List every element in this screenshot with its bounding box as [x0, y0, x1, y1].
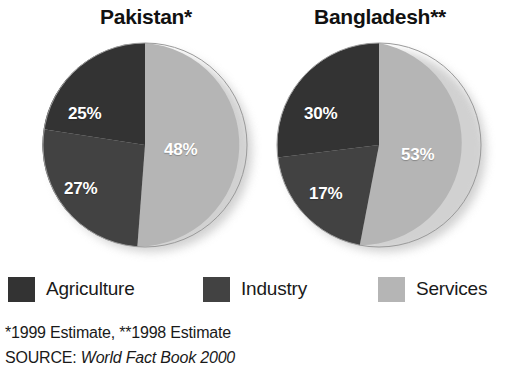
pie-bangladesh: [276, 42, 482, 248]
chart-title-bangladesh: Bangladesh**: [260, 5, 500, 29]
pie-label-agriculture: 25%: [68, 104, 101, 124]
source-prefix: SOURCE:: [5, 349, 81, 366]
pie-pakistan: [42, 42, 248, 248]
pie-wrapper-bangladesh: 30% 17% 53%: [276, 42, 486, 254]
pie-slice-agriculture: [277, 43, 379, 157]
pie-slice-agriculture: [44, 43, 145, 145]
chart-legend: Agriculture Industry Services: [0, 272, 507, 314]
pie-label-services: 48%: [164, 140, 197, 160]
legend-swatch-industry: [203, 277, 230, 302]
pie-charts-area: Pakistan* 25% 27% 48% Bangladesh**: [0, 0, 507, 268]
footnotes: *1999 Estimate, **1998 Estimate SOURCE: …: [5, 320, 505, 370]
footnote-estimates: *1999 Estimate, **1998 Estimate: [5, 320, 505, 345]
legend-label-agriculture: Agriculture: [46, 278, 135, 300]
legend-swatch-services: [378, 277, 405, 302]
legend-label-industry: Industry: [241, 278, 307, 300]
footnote-source: SOURCE: World Fact Book 2000: [5, 345, 505, 370]
source-title: World Fact Book 2000: [81, 349, 235, 366]
pie-label-services: 53%: [401, 145, 434, 165]
chart-bangladesh: Bangladesh** 30% 17% 53%: [260, 0, 500, 268]
pie-wrapper-pakistan: 25% 27% 48%: [42, 42, 252, 254]
chart-title-pakistan: Pakistan*: [26, 5, 266, 29]
legend-label-services: Services: [416, 278, 487, 300]
legend-item-agriculture: Agriculture: [8, 272, 135, 306]
pie-label-industry: 17%: [309, 184, 342, 204]
pie-label-agriculture: 30%: [304, 104, 337, 124]
chart-pakistan: Pakistan* 25% 27% 48%: [26, 0, 266, 268]
legend-item-services: Services: [378, 272, 487, 306]
legend-item-industry: Industry: [203, 272, 307, 306]
legend-swatch-agriculture: [8, 277, 35, 302]
pie-label-industry: 27%: [64, 179, 97, 199]
